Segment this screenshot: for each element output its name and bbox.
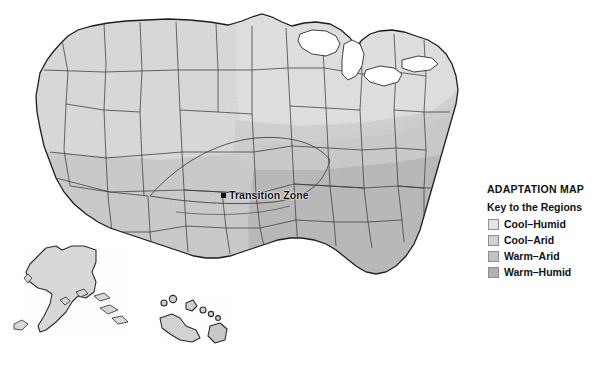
legend-item-warm-humid: Warm–Humid [488, 266, 595, 278]
transition-zone-annotation: Transition Zone [221, 189, 309, 201]
screenshot-root: Transition Zone ADAPTATION MAP Key to th… [0, 0, 597, 380]
legend-swatch-cool-humid [488, 219, 499, 230]
transition-zone-label-text: Transition Zone [229, 189, 309, 201]
map-legend: ADAPTATION MAP Key to the Regions Cool–H… [487, 183, 595, 282]
hawaii-inset [155, 294, 235, 348]
legend-label-cool-humid: Cool–Humid [504, 218, 566, 230]
alaska-inset [14, 244, 132, 336]
legend-label-cool-arid: Cool–Arid [504, 234, 554, 246]
legend-item-cool-humid: Cool–Humid [488, 218, 595, 230]
legend-swatch-warm-humid [488, 267, 499, 278]
legend-swatch-cool-arid [488, 235, 499, 246]
legend-item-warm-arid: Warm–Arid [488, 250, 595, 262]
transition-zone-marker-icon [221, 193, 226, 198]
map-figure: Transition Zone [0, 0, 490, 380]
legend-label-warm-humid: Warm–Humid [504, 266, 571, 278]
legend-subtitle: Key to the Regions [487, 201, 595, 213]
legend-swatch-warm-arid [488, 251, 499, 262]
legend-title: ADAPTATION MAP [487, 183, 595, 195]
legend-label-warm-arid: Warm–Arid [504, 250, 560, 262]
legend-item-cool-arid: Cool–Arid [488, 234, 595, 246]
